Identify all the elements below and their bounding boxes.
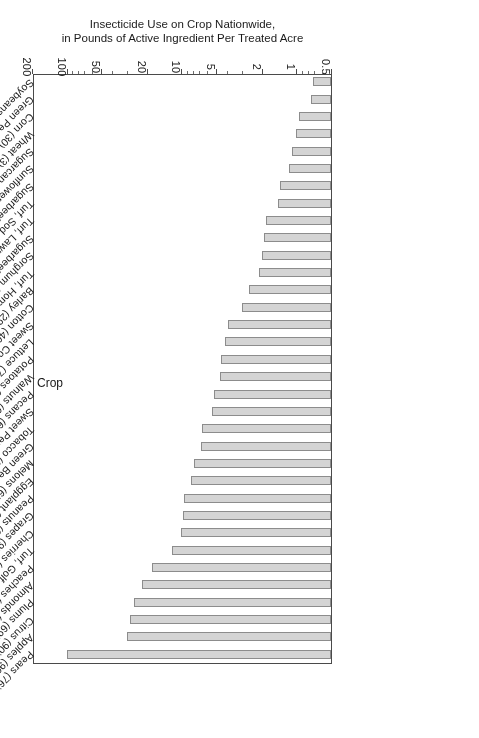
value-axis-minor-tick: [72, 71, 73, 74]
bar: [242, 303, 331, 312]
bar: [152, 563, 331, 572]
bar-row: [32, 459, 331, 468]
bar-row: [32, 285, 331, 294]
value-axis-minor-tick: [314, 71, 315, 74]
bar-row: [32, 442, 331, 451]
bar: [296, 129, 331, 138]
value-axis-tick-label: 200: [21, 58, 33, 77]
plot-area: [33, 74, 332, 664]
figure-rotator: 0.5125102050100200 Insecticide Use on Cr…: [0, 0, 479, 738]
bar: [67, 650, 331, 659]
bar-row: [32, 546, 331, 555]
bar-row: [32, 511, 331, 520]
bar-row: [32, 216, 331, 225]
bar: [311, 95, 331, 104]
value-axis-title: Insecticide Use on Crop Nationwide, in P…: [33, 17, 332, 45]
value-axis-minor-tick: [84, 71, 85, 74]
bar: [278, 199, 331, 208]
bar: [182, 528, 332, 537]
bar-row: [32, 112, 331, 121]
value-axis-title-line1: Insecticide Use on Crop Nationwide,: [33, 17, 332, 31]
bar: [184, 494, 331, 503]
value-axis-minor-tick: [127, 71, 128, 74]
bar-row: [32, 95, 331, 104]
value-axis-minor-tick: [227, 71, 228, 74]
bar-row: [32, 181, 331, 190]
category-axis-title: Crop: [37, 376, 63, 390]
value-axis-tick-label: 100: [56, 58, 68, 77]
bar-row: [32, 233, 331, 242]
value-axis-title-line2: in Pounds of Active Ingredient Per Treat…: [33, 31, 332, 45]
bar: [191, 476, 331, 485]
value-axis-tick-label: 1: [285, 64, 297, 70]
bar: [259, 268, 331, 277]
bar-row: [32, 164, 331, 173]
value-axis-tick-label: 2: [251, 64, 263, 70]
bar: [202, 442, 332, 451]
bar: [214, 390, 331, 399]
value-axis-minor-tick: [207, 71, 208, 74]
bar-row: [32, 268, 331, 277]
bar: [299, 112, 331, 121]
value-axis-tick-label: 20: [136, 61, 148, 74]
bar-row: [32, 494, 331, 503]
bar: [202, 424, 331, 433]
bar: [221, 355, 331, 364]
value-axis-minor-tick: [78, 71, 79, 74]
value-axis-minor-tick: [193, 71, 194, 74]
bar-row: [32, 337, 331, 346]
value-axis-tick-label: 10: [171, 61, 183, 74]
bar-row: [32, 372, 331, 381]
value-axis-minor-tick: [302, 71, 303, 74]
bar: [249, 285, 331, 294]
bar: [266, 216, 331, 225]
bar: [142, 580, 331, 589]
value-axis-minor-tick: [187, 71, 188, 74]
bar: [194, 459, 331, 468]
bar: [262, 251, 331, 260]
bar-row: [32, 580, 331, 589]
value-axis-minor-tick: [242, 71, 243, 74]
bar-row: [32, 528, 331, 537]
value-axis-minor-tick: [199, 71, 200, 74]
bar-row: [32, 424, 331, 433]
bar-row: [32, 251, 331, 260]
bar-row: [32, 476, 331, 485]
bar: [264, 233, 331, 242]
bar-row: [32, 199, 331, 208]
bar-row: [32, 650, 331, 659]
bar: [220, 372, 331, 381]
bar-row: [32, 407, 331, 416]
bar: [127, 632, 331, 641]
insecticide-use-bar-chart: 0.5125102050100200 Insecticide Use on Cr…: [0, 0, 479, 738]
value-axis-tick-label: 5: [205, 64, 217, 70]
value-axis-minor-tick: [322, 71, 323, 74]
bar: [225, 337, 331, 346]
bar: [212, 407, 331, 416]
value-axis-minor-tick: [92, 71, 93, 74]
bar: [292, 147, 331, 156]
bar: [229, 320, 332, 329]
bar: [313, 77, 331, 86]
bar: [183, 511, 331, 520]
bar-row: [32, 320, 331, 329]
bar-row: [32, 355, 331, 364]
value-axis-minor-tick: [308, 71, 309, 74]
bar-row: [32, 390, 331, 399]
bar: [130, 615, 331, 624]
bar: [172, 546, 331, 555]
bar-row: [32, 129, 331, 138]
value-axis-minor-tick: [112, 71, 113, 74]
bar: [280, 181, 331, 190]
bar-row: [32, 303, 331, 312]
bar-row: [32, 598, 331, 607]
bar: [289, 164, 331, 173]
bar-row: [32, 632, 331, 641]
bar-row: [32, 147, 331, 156]
bar-row: [32, 615, 331, 624]
bar-row: [32, 563, 331, 572]
bar: [134, 598, 331, 607]
bar-row: [32, 77, 331, 86]
